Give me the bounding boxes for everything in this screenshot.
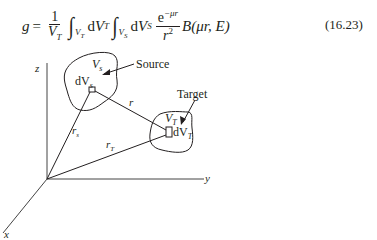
- source-volume-label: Vs: [92, 57, 102, 73]
- source-label: Source: [136, 57, 169, 71]
- x-axis-label: x: [3, 228, 9, 240]
- z-axis-label: z: [34, 62, 40, 74]
- rT-label: rT: [106, 138, 115, 153]
- target-element-label: dVT: [173, 125, 193, 141]
- x-axis: [3, 179, 47, 233]
- target-label: Target: [177, 87, 208, 101]
- target-element: [166, 127, 172, 137]
- source-element-label: dVs: [75, 74, 93, 90]
- r-label: r: [129, 96, 134, 108]
- source-arrowhead-icon: [102, 69, 110, 75]
- y-axis-label: y: [204, 172, 210, 184]
- rs-label: rs: [72, 124, 79, 139]
- geometry-diagram: z y x Source Vs dVs Target VT dVT r rs r…: [0, 0, 377, 240]
